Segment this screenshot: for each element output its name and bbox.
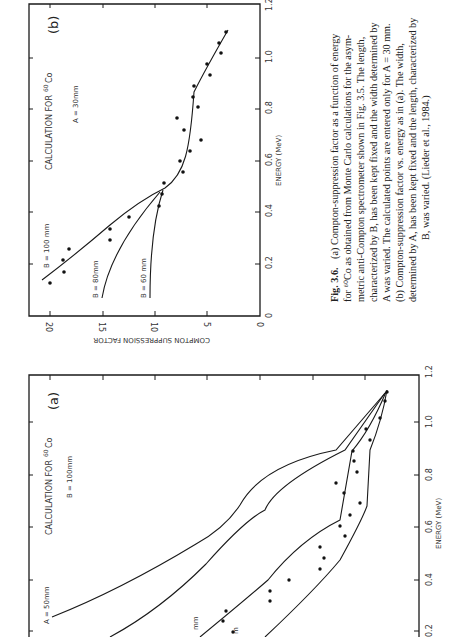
- svg-text:Co: Co: [45, 72, 54, 83]
- svg-text:60: 60: [42, 449, 49, 457]
- svg-text:15: 15: [97, 322, 106, 332]
- label-a40: mm: [192, 616, 200, 630]
- panel-a-subtitle: B = 100mm: [66, 456, 74, 498]
- svg-text:0.2: 0.2: [265, 256, 274, 269]
- svg-text:0.8: 0.8: [265, 101, 274, 114]
- svg-text:1.0: 1.0: [425, 415, 434, 428]
- svg-text:10: 10: [149, 322, 158, 332]
- svg-text:for ⁶⁰Co as obtained from Mont: for ⁶⁰Co as obtained from Monte Carlo ca…: [342, 34, 353, 302]
- panel-b-subtitle: A = 30mm: [72, 85, 80, 123]
- svg-text:A was varied. The calculated p: A was varied. The calculated points are …: [381, 23, 392, 302]
- svg-text:1.2: 1.2: [425, 365, 434, 378]
- svg-text:60: 60: [42, 84, 49, 92]
- panel-a-energy-ticks: [29, 422, 419, 631]
- curve-b60: [150, 190, 163, 298]
- panel-b-energy-ticks: [29, 58, 260, 264]
- panel-b-energy-tick-labels: 0 0.2 0.4 0.6 0.8 1.0 1.2 ENERGY (MeV): [265, 0, 283, 318]
- panel-a: 1.2 1.0 0.8 0.6 0.4 0.2 ENERGY (MeV) (a)…: [29, 365, 443, 637]
- label-b100: B = 100 mm: [43, 223, 51, 268]
- curve-a50: [52, 392, 386, 617]
- svg-text:0.2: 0.2: [425, 624, 434, 637]
- panel-a-label: (a): [46, 392, 61, 410]
- panel-a-energy-tick-labels: 1.2 1.0 0.8 0.6 0.4 0.2 ENERGY (MeV): [425, 365, 443, 637]
- svg-text:0.6: 0.6: [265, 153, 274, 166]
- svg-text:Co: Co: [45, 437, 54, 448]
- panel-b-factor-tick-labels: 20 15 10 5 0 COMPTON SUPPRESSION FACTOR: [44, 322, 264, 344]
- curve-a40: [110, 393, 385, 637]
- svg-text:metric anti-Compton spectromet: metric anti-Compton spectrometer shown i…: [355, 37, 366, 302]
- curve-b80: [102, 192, 160, 298]
- curve-a30: [200, 392, 386, 637]
- panel-b: 0 0.2 0.4 0.6 0.8 1.0 1.2 ENERGY (MeV) 2…: [29, 0, 283, 344]
- panel-b-points: [48, 30, 228, 285]
- svg-text:5: 5: [202, 322, 211, 327]
- svg-text:characterized by B, has been k: characterized by B, has been kept fixed …: [368, 22, 379, 302]
- rotated-figure-page: 0 0.2 0.4 0.6 0.8 1.0 1.2 ENERGY (MeV) 2…: [0, 0, 455, 637]
- panel-b-energy-axis-label: ENERGY (MeV): [275, 135, 283, 186]
- label-a50: A = 50mm: [43, 586, 51, 624]
- panel-b-factor-ticks: [50, 4, 207, 316]
- panel-b-title: CALCULATION FOR 60 Co: [42, 72, 54, 170]
- svg-text:1.2: 1.2: [265, 0, 274, 11]
- panel-a-points: [221, 390, 388, 633]
- label-b80: B = 80mm: [92, 260, 100, 298]
- label-b60: B = 60 mm: [140, 258, 148, 298]
- svg-text:0.4: 0.4: [265, 204, 274, 217]
- panel-a-energy-axis-label: ENERGY (MeV): [435, 498, 443, 549]
- svg-text:CALCULATION FOR: CALCULATION FOR: [45, 460, 54, 535]
- svg-text:0: 0: [265, 313, 274, 318]
- svg-text:0: 0: [255, 322, 264, 327]
- panel-a-title: CALCULATION FOR 60 Co: [42, 437, 54, 535]
- curve-b100: [42, 30, 228, 280]
- svg-text:20: 20: [44, 322, 53, 332]
- panel-a-frame: [29, 375, 419, 637]
- svg-text:determined by A, has been kept: determined by A, has been kept fixed and…: [407, 17, 418, 302]
- panel-a-top-ticks: [50, 375, 365, 380]
- caption-label: Fig. 3.6.: [329, 267, 340, 302]
- panel-b-label: (b): [46, 16, 61, 34]
- figure-caption: Fig. 3.6. (a) Compton-suppression factor…: [329, 17, 432, 302]
- svg-text:(b) Compton-suppression factor: (b) Compton-suppression factor vs. energ…: [394, 43, 406, 302]
- svg-text:0.4: 0.4: [425, 573, 434, 586]
- svg-text:0.6: 0.6: [425, 520, 434, 533]
- svg-text:Fig. 3.6. (a) Compton-su: Fig. 3.6. (a) Compton-suppression factor…: [329, 33, 341, 302]
- svg-text:B, was varied. (Lieder et al.,: B, was varied. (Lieder et al., 1984.): [420, 95, 432, 240]
- svg-text:1.0: 1.0: [265, 50, 274, 63]
- svg-text:0.8: 0.8: [425, 468, 434, 481]
- panel-b-factor-axis-label: COMPTON SUPPRESSION FACTOR: [93, 336, 210, 344]
- svg-text:CALCULATION FOR: CALCULATION FOR: [45, 95, 54, 170]
